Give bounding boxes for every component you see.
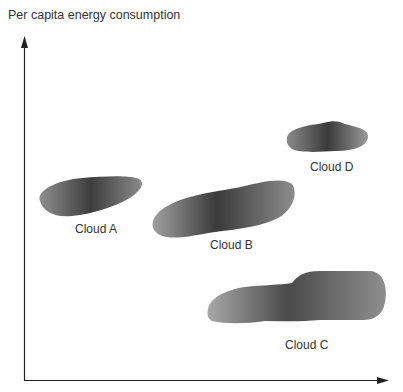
cloud-d-shape bbox=[287, 121, 368, 152]
y-axis bbox=[21, 36, 28, 381]
diagram-canvas bbox=[0, 0, 403, 392]
x-axis bbox=[24, 377, 389, 384]
cloud-c-shape bbox=[207, 271, 385, 323]
cloud-a-shape bbox=[40, 176, 142, 216]
cloud-d-label: Cloud D bbox=[310, 160, 353, 174]
cloud-b-shape bbox=[153, 180, 295, 237]
cloud-a-label: Cloud A bbox=[75, 222, 117, 236]
cloud-b-label: Cloud B bbox=[210, 238, 253, 252]
x-axis-arrow-icon bbox=[377, 377, 389, 384]
cloud-c-label: Cloud C bbox=[285, 338, 328, 352]
y-axis-arrow-icon bbox=[21, 36, 28, 48]
